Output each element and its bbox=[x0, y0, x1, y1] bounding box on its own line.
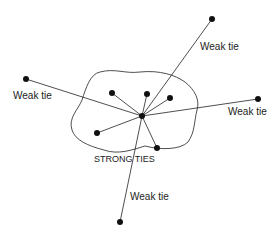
strong-tie-edge bbox=[142, 116, 157, 148]
strong-tie-node bbox=[154, 145, 160, 151]
weak-tie-edge bbox=[142, 19, 212, 116]
network-graph bbox=[0, 0, 278, 239]
strong-tie-node bbox=[109, 90, 115, 96]
strong-tie-node bbox=[167, 95, 173, 101]
strong-tie-edge bbox=[112, 93, 142, 116]
weak-tie-label-right: Weak tie bbox=[228, 106, 267, 117]
strong-tie-node bbox=[94, 130, 100, 136]
weak-tie-label-left: Weak tie bbox=[13, 90, 52, 101]
weak-tie-edge bbox=[120, 116, 142, 222]
social-network-diagram: Weak tie Weak tie Weak tie Weak tie STRO… bbox=[0, 0, 278, 239]
weak-tie-node bbox=[255, 96, 261, 102]
central-node bbox=[139, 113, 145, 119]
weak-tie-node bbox=[23, 76, 29, 82]
strong-ties-cluster-outline bbox=[71, 71, 198, 153]
weak-tie-label-bottom: Weak tie bbox=[130, 191, 169, 202]
strong-ties-label: STRONG TIES bbox=[94, 154, 155, 164]
weak-tie-node bbox=[117, 219, 123, 225]
weak-tie-label-top: Weak tie bbox=[200, 41, 239, 52]
strong-tie-edge bbox=[142, 98, 170, 116]
strong-tie-edge bbox=[97, 116, 142, 133]
weak-tie-node bbox=[209, 16, 215, 22]
strong-tie-node bbox=[144, 91, 150, 97]
